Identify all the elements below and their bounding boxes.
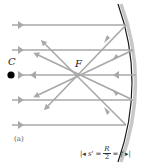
formula-eq1: = [95, 150, 101, 158]
formula-rhs: f [120, 150, 123, 158]
concave-mirror-diagram: C F (a) |◂ s' = R 2 = f ▸| [0, 0, 153, 168]
center-label: C [8, 57, 16, 67]
right-bracket: ▸| [125, 150, 131, 158]
focal-length-formula: |◂ s' = R 2 = f ▸| [80, 146, 131, 161]
left-bracket: |◂ [80, 150, 86, 158]
focal-point-label: F [75, 59, 82, 69]
formula-lhs: s' [88, 150, 94, 158]
formula-denominator: 2 [105, 154, 109, 161]
panel-label: (a) [14, 136, 24, 143]
formula-fraction: R 2 [103, 146, 110, 161]
center-of-curvature-dot [7, 71, 14, 78]
formula-eq2: = [113, 150, 119, 158]
